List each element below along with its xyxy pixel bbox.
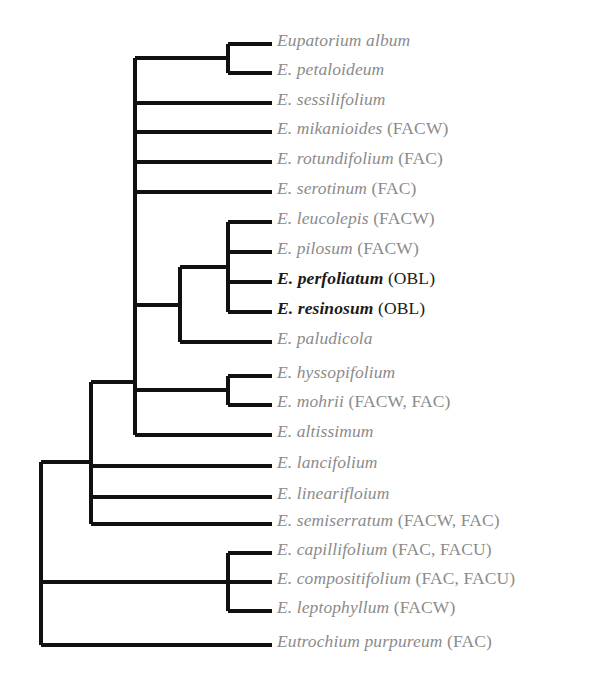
tip-label: E. sessilifolium bbox=[277, 91, 386, 109]
species-name: E. hyssopifolium bbox=[277, 362, 395, 382]
tip-label: E. hyssopifolium bbox=[277, 364, 395, 382]
species-name: E. mohrii bbox=[277, 391, 344, 411]
tip-label: E. compositifolium (FAC, FACU) bbox=[277, 570, 515, 588]
tip-label: E. serotinum (FAC) bbox=[277, 180, 416, 198]
wetland-indicator-code: (FAC) bbox=[371, 178, 416, 198]
species-name: E. compositifolium bbox=[277, 568, 411, 588]
species-name: Eupatorium album bbox=[277, 30, 410, 50]
tip-label: E. paludicola bbox=[277, 330, 373, 348]
species-name: E. leucolepis bbox=[277, 208, 369, 228]
tip-label: Eutrochium purpureum (FAC) bbox=[277, 633, 492, 651]
wetland-indicator-code: (FAC) bbox=[447, 631, 492, 651]
species-name: E. perfoliatum bbox=[277, 268, 383, 288]
species-name: E. resinosum bbox=[277, 298, 374, 318]
species-name: E. semiserratum bbox=[277, 510, 393, 530]
wetland-indicator-code: (FACW) bbox=[387, 118, 449, 138]
species-name: E. leptophyllum bbox=[277, 597, 389, 617]
species-name: Eutrochium purpureum bbox=[277, 631, 442, 651]
wetland-indicator-code: (FACW) bbox=[357, 238, 419, 258]
tip-label-layer: Eupatorium albumE. petaloideumE. sessili… bbox=[0, 0, 593, 677]
species-name: E. pilosum bbox=[277, 238, 353, 258]
tip-label: E. semiserratum (FACW, FAC) bbox=[277, 512, 500, 530]
wetland-indicator-code: (FAC) bbox=[398, 148, 443, 168]
tip-label: E. leptophyllum (FACW) bbox=[277, 599, 455, 617]
species-name: E. altissimum bbox=[277, 421, 374, 441]
wetland-indicator-code: (FACW) bbox=[394, 597, 456, 617]
wetland-indicator-code: (FACW) bbox=[373, 208, 435, 228]
tip-label: E. rotundifolium (FAC) bbox=[277, 150, 443, 168]
species-name: E. petaloideum bbox=[277, 59, 384, 79]
tip-label: E. leucolepis (FACW) bbox=[277, 210, 435, 228]
tip-label: E. capillifolium (FAC, FACU) bbox=[277, 541, 492, 559]
wetland-indicator-code: (FAC, FACU) bbox=[392, 539, 492, 559]
species-name: E. sessilifolium bbox=[277, 89, 386, 109]
species-name: E. paludicola bbox=[277, 328, 373, 348]
tip-label: E. perfoliatum (OBL) bbox=[277, 270, 435, 288]
species-name: E. rotundifolium bbox=[277, 148, 394, 168]
tip-label: E. resinosum (OBL) bbox=[277, 300, 425, 318]
tip-label: E. altissimum bbox=[277, 423, 374, 441]
tip-label: E. petaloideum bbox=[277, 61, 384, 79]
tip-label: E. pilosum (FACW) bbox=[277, 240, 419, 258]
wetland-indicator-code: (FAC, FACU) bbox=[416, 568, 516, 588]
species-name: E. lancifolium bbox=[277, 452, 378, 472]
wetland-indicator-code: (FACW, FAC) bbox=[349, 391, 451, 411]
tip-label: E. mikanioides (FACW) bbox=[277, 120, 448, 138]
tip-label: E. linearifloium bbox=[277, 485, 389, 503]
species-name: E. capillifolium bbox=[277, 539, 387, 559]
phylogenetic-tree-figure: Eupatorium albumE. petaloideumE. sessili… bbox=[0, 0, 593, 677]
tip-label: E. mohrii (FACW, FAC) bbox=[277, 393, 450, 411]
wetland-indicator-code: (OBL) bbox=[378, 298, 425, 318]
tip-label: E. lancifolium bbox=[277, 454, 378, 472]
species-name: E. linearifloium bbox=[277, 483, 389, 503]
wetland-indicator-code: (FACW, FAC) bbox=[398, 510, 500, 530]
species-name: E. mikanioides bbox=[277, 118, 382, 138]
tip-label: Eupatorium album bbox=[277, 32, 410, 50]
species-name: E. serotinum bbox=[277, 178, 367, 198]
wetland-indicator-code: (OBL) bbox=[388, 268, 435, 288]
